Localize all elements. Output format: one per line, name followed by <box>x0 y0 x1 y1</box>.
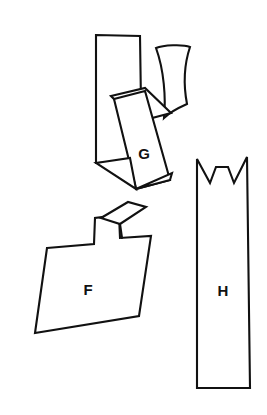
shape-label-h: H <box>218 282 229 299</box>
shape-h-crowned-strip-outline <box>197 157 250 388</box>
shape-h: H <box>197 157 250 388</box>
shape-label-f: F <box>83 281 92 298</box>
figure-canvas: G F H <box>0 0 267 415</box>
shape-label-g: G <box>138 145 150 162</box>
